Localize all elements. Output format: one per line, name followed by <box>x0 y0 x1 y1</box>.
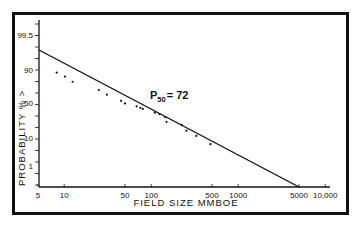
fit-line-path <box>39 50 299 187</box>
data-point <box>124 102 126 104</box>
x-tick-label: 50 <box>121 191 130 200</box>
data-points <box>56 71 212 145</box>
x-axis-title: FIELD SIZE MMBOE <box>133 197 238 208</box>
data-point <box>120 100 122 102</box>
data-point <box>159 113 161 115</box>
axes <box>39 20 330 187</box>
data-point <box>64 76 66 78</box>
y-tick-label: 99.5 <box>17 31 33 40</box>
data-point <box>72 81 74 83</box>
data-point <box>139 107 141 109</box>
fit-line <box>39 50 299 187</box>
data-point <box>106 94 108 96</box>
probability-plot: 99.59050101 510501005001000500010,000 FI… <box>0 0 360 227</box>
x-tick-label: 5 <box>36 191 41 200</box>
data-point <box>185 130 187 132</box>
data-point <box>195 135 197 137</box>
data-point <box>154 112 156 114</box>
x-tick-label: 10 <box>60 191 69 200</box>
x-tick-label: 5000 <box>290 191 308 200</box>
y-tick-label: 90 <box>24 66 33 75</box>
data-point <box>98 89 100 91</box>
data-point <box>56 71 58 73</box>
data-point <box>136 105 138 107</box>
x-tick-label: 10,000 <box>313 191 338 200</box>
data-point <box>181 124 183 126</box>
data-point <box>209 143 211 145</box>
y-tick-label: 1 <box>29 162 34 171</box>
y-axis-title: PROBABILITY % > <box>16 90 27 186</box>
data-point <box>142 108 144 110</box>
data-point <box>164 116 166 118</box>
data-point <box>165 121 167 123</box>
p50-annotation: P50= 72 <box>150 89 188 104</box>
